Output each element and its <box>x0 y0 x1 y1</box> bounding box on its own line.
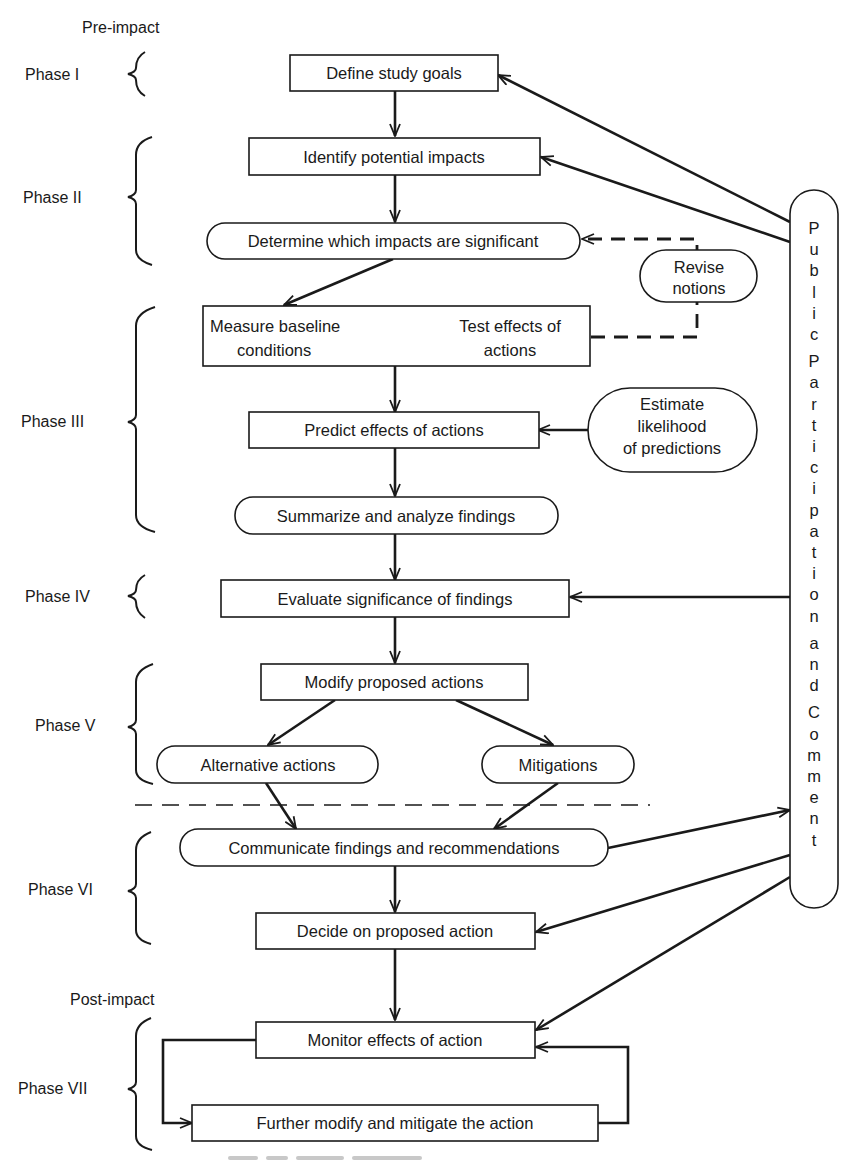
node-modify-actions[interactable]: Modify proposed actions <box>261 664 528 700</box>
node-estimate-line2: likelihood <box>638 417 707 435</box>
phase-1-label: Phase I <box>25 66 79 83</box>
node-evaluate-significance-label: Evaluate significance of findings <box>278 590 513 608</box>
public-participation-letter: c <box>810 325 818 343</box>
node-mitigations[interactable]: Mitigations <box>482 746 634 783</box>
public-participation-letter: n <box>809 655 818 673</box>
phase-7-brace <box>128 1018 152 1150</box>
public-participation-letter: u <box>809 240 818 258</box>
phase-5-brace <box>128 664 153 784</box>
node-predict-effects-label: Predict effects of actions <box>304 421 483 439</box>
phase-4-group: Phase IV <box>25 575 145 618</box>
phase-3-brace <box>128 307 155 532</box>
node-communicate-findings[interactable]: Communicate findings and recommendations <box>180 829 608 866</box>
public-participation-letter: m <box>807 767 821 785</box>
phase-7-group: Phase VII <box>18 1018 152 1150</box>
edge-modify-to-alternative <box>268 700 335 745</box>
edge-public-to-monitor <box>536 877 790 1030</box>
public-participation-letter: a <box>809 522 819 540</box>
node-define-goals-label: Define study goals <box>326 64 462 82</box>
public-participation-letter: t <box>812 543 817 561</box>
edge-alternative-to-communicate <box>266 783 296 829</box>
node-further-modify[interactable]: Further modify and mitigate the action <box>192 1105 598 1141</box>
public-participation-letter: a <box>809 373 819 391</box>
phase-2-label: Phase II <box>23 189 82 206</box>
public-participation-letter: i <box>812 437 816 455</box>
edge-public-to-identify <box>541 157 790 242</box>
edge-public-to-goals <box>498 75 790 222</box>
public-participation-letter: l <box>812 283 816 301</box>
node-estimate-likelihood[interactable]: Estimate likelihood of predictions <box>588 388 757 472</box>
node-measure-baseline-line2: conditions <box>237 341 311 359</box>
public-participation-letter: i <box>812 479 816 497</box>
public-participation-letter: e <box>809 788 818 806</box>
phase-4-label: Phase IV <box>25 588 90 605</box>
node-public-participation[interactable]: PublicParticipationandComment <box>790 190 838 908</box>
public-participation-letter: o <box>809 585 818 603</box>
node-monitor-effects[interactable]: Monitor effects of action <box>256 1022 535 1058</box>
node-monitor-effects-label: Monitor effects of action <box>308 1031 483 1049</box>
post-impact-label: Post-impact <box>70 991 155 1008</box>
public-participation-letter: c <box>810 458 818 476</box>
public-participation-letter: d <box>809 676 818 694</box>
public-participation-letter: i <box>812 304 816 322</box>
edge-determine-to-measure <box>284 259 393 305</box>
phase-6-brace <box>128 832 151 944</box>
public-participation-letter: a <box>809 634 819 652</box>
public-participation-letter: b <box>809 261 818 279</box>
node-revise-notions-line1: Revise <box>674 258 724 276</box>
node-summarize-findings[interactable]: Summarize and analyze findings <box>235 497 558 534</box>
node-evaluate-significance[interactable]: Evaluate significance of findings <box>221 580 569 617</box>
public-participation-letter: m <box>807 746 821 764</box>
node-determine-significant-label: Determine which impacts are significant <box>248 232 539 250</box>
node-estimate-line1: Estimate <box>640 395 704 413</box>
flowchart-canvas: Pre-impact Post-impact Phase I Phase II … <box>0 0 856 1165</box>
node-revise-notions-line2: notions <box>672 279 725 297</box>
public-participation-letter: o <box>809 725 818 743</box>
phase-6-group: Phase VI <box>28 832 151 944</box>
edge-communicate-to-public <box>608 810 790 848</box>
phase-2-brace <box>128 137 152 265</box>
node-test-effects-line1: Test effects of <box>459 317 561 335</box>
node-estimate-line3: of predictions <box>623 439 721 457</box>
public-participation-letter: n <box>809 607 818 625</box>
pre-impact-label: Pre-impact <box>82 19 160 36</box>
node-measure-baseline-line1: Measure baseline <box>210 317 340 335</box>
figure-caption-faint <box>228 1156 422 1160</box>
node-determine-significant[interactable]: Determine which impacts are significant <box>207 223 580 259</box>
public-participation-letter: P <box>808 219 819 237</box>
node-alternative-actions[interactable]: Alternative actions <box>157 746 378 783</box>
edge-modify-to-mitigations <box>456 700 553 745</box>
node-define-goals[interactable]: Define study goals <box>290 55 498 91</box>
node-test-effects-line2: actions <box>484 341 536 359</box>
public-participation-letter: i <box>812 564 816 582</box>
phase-1-group: Phase I <box>25 52 145 96</box>
phase-1-brace <box>128 52 145 96</box>
public-participation-letter: p <box>809 501 818 519</box>
node-summarize-findings-label: Summarize and analyze findings <box>277 507 515 525</box>
node-further-modify-label: Further modify and mitigate the action <box>257 1114 534 1132</box>
public-participation-letter: P <box>808 352 819 370</box>
node-measure-test[interactable]: Measure baseline conditions Test effects… <box>203 306 590 366</box>
phase-7-label: Phase VII <box>18 1080 87 1097</box>
phase-2-group: Phase II <box>23 137 152 265</box>
node-revise-notions[interactable]: Revise notions <box>640 250 757 302</box>
public-participation-letter: r <box>811 395 817 413</box>
node-identify-impacts[interactable]: Identify potential impacts <box>249 138 540 175</box>
node-modify-actions-label: Modify proposed actions <box>305 673 484 691</box>
node-predict-effects[interactable]: Predict effects of actions <box>249 412 539 448</box>
phase-5-group: Phase V <box>35 664 153 784</box>
node-decide-action-label: Decide on proposed action <box>297 922 493 940</box>
phase-3-group: Phase III <box>21 307 155 532</box>
node-decide-action[interactable]: Decide on proposed action <box>256 913 535 949</box>
phase-5-label: Phase V <box>35 717 96 734</box>
public-participation-letter: t <box>812 416 817 434</box>
phase-6-label: Phase VI <box>28 881 93 898</box>
edge-mitigations-to-communicate <box>494 783 558 829</box>
phase-4-brace <box>128 575 145 618</box>
public-participation-letter: t <box>812 831 817 849</box>
phase-3-label: Phase III <box>21 413 84 430</box>
public-participation-letter: C <box>808 703 820 721</box>
node-mitigations-label: Mitigations <box>519 756 598 774</box>
public-participation-letter: n <box>809 809 818 827</box>
node-communicate-findings-label: Communicate findings and recommendations <box>228 839 559 857</box>
